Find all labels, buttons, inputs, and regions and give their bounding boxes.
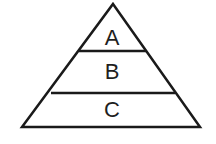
pyramid-tier-label-a: A: [105, 25, 120, 50]
pyramid-tier-label-b: B: [105, 59, 120, 84]
pyramid-diagram: A B C: [0, 0, 216, 144]
pyramid-tier-label-c: C: [104, 97, 120, 122]
diagram-canvas: A B C: [0, 0, 216, 144]
